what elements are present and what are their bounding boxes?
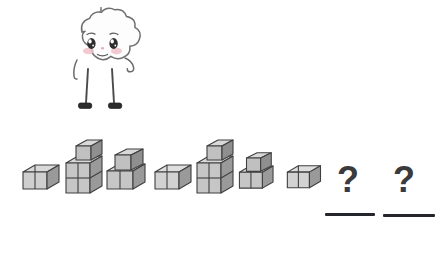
left-shoe — [78, 103, 91, 108]
cloud-character — [55, 4, 147, 122]
answer-line-1[interactable] — [325, 213, 375, 216]
pattern-item-6 — [234, 151, 282, 197]
pattern-item-8-question-mark[interactable]: ? — [335, 162, 361, 198]
right-shoe — [108, 103, 121, 108]
nose — [101, 47, 104, 49]
right-eye — [109, 38, 117, 49]
worksheet-canvas: ? ? — [0, 0, 447, 257]
left-eye — [87, 38, 95, 49]
pattern-item-9-question-mark[interactable]: ? — [391, 162, 417, 198]
left-arm — [74, 60, 77, 79]
answer-line-2[interactable] — [383, 214, 435, 217]
right-arm — [125, 58, 134, 72]
pattern-sequence: ? ? — [0, 133, 447, 203]
pattern-item-7 — [279, 162, 327, 197]
